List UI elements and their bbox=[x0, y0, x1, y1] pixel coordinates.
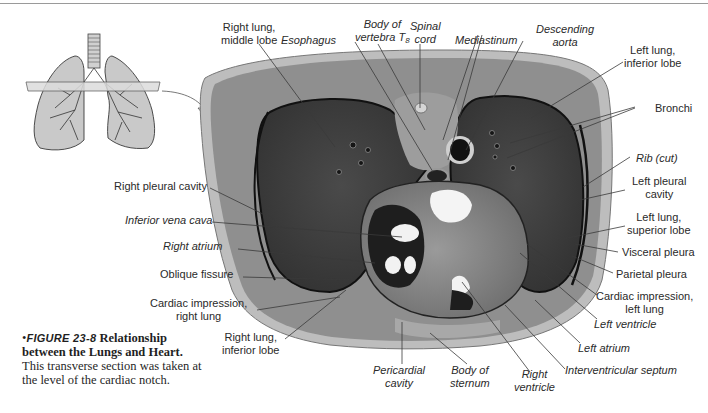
label-spinal-cord: Spinal cord bbox=[410, 20, 441, 46]
label-right-lung-inferior-lobe: Right lung, inferior lobe bbox=[222, 331, 279, 357]
label-left-pleural-cavity: Left pleural cavity bbox=[632, 175, 686, 201]
label-esophagus: Esophagus bbox=[281, 34, 336, 47]
label-oblique-fissure: Oblique fissure bbox=[160, 268, 233, 281]
label-right-lung-middle-lobe: Right lung, middle lobe bbox=[221, 21, 277, 47]
label-left-lung-inferior-lobe: Left lung, inferior lobe bbox=[624, 44, 681, 70]
label-mediastinum: Mediastinum bbox=[455, 34, 517, 47]
label-vertebra: Body of vertebra T8 bbox=[355, 18, 410, 47]
label-pericardial-cavity: Pericardial cavity bbox=[373, 364, 425, 390]
label-inferior-vena-cava: Inferior vena cava bbox=[125, 214, 212, 227]
label-body-of-sternum: Body of sternum bbox=[450, 364, 490, 390]
figure-caption: •FIGURE 23-8 Relationship between the Lu… bbox=[22, 331, 202, 387]
label-descending-aorta: Descending aorta bbox=[536, 23, 594, 49]
label-interventricular-septum: Interventricular septum bbox=[565, 364, 677, 377]
label-parietal-pleura: Parietal pleura bbox=[616, 268, 687, 281]
label-right-pleural-cavity: Right pleural cavity bbox=[114, 180, 207, 193]
figure-number: FIGURE 23-8 bbox=[26, 332, 96, 344]
label-cardiac-impression-left-lung: Cardiac impression, left lung bbox=[596, 290, 693, 316]
label-left-atrium: Left atrium bbox=[578, 342, 630, 355]
label-rib-cut: Rib (cut) bbox=[636, 152, 678, 165]
label-visceral-pleura: Visceral pleura bbox=[622, 246, 695, 259]
inset-lungs-diagram bbox=[26, 34, 214, 150]
label-left-lung-superior-lobe: Left lung, superior lobe bbox=[627, 211, 691, 237]
label-bronchi: Bronchi bbox=[655, 102, 692, 115]
figure-caption-text: This transverse section was taken at the… bbox=[22, 359, 201, 387]
transverse-section-photo bbox=[200, 50, 612, 349]
label-cardiac-impression-right-lung: Cardiac impression, right lung bbox=[150, 297, 247, 323]
label-right-ventricle: Right ventricle bbox=[514, 368, 555, 394]
label-left-ventricle: Left ventricle bbox=[594, 318, 656, 331]
label-right-atrium: Right atrium bbox=[163, 240, 222, 253]
